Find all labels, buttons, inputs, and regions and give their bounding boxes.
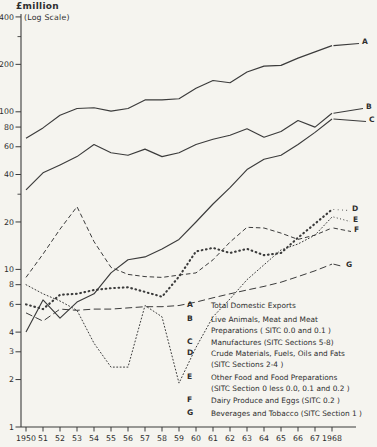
- x-tick-label: 53: [72, 434, 82, 443]
- x-tick-label: 64: [259, 434, 269, 443]
- series-C-leader: [334, 119, 367, 121]
- y-tick-label: 8: [9, 280, 14, 289]
- series-G-leader: [334, 264, 344, 266]
- x-tick-label: 1950: [16, 434, 36, 443]
- x-tick-label: 52: [55, 434, 65, 443]
- series-E-leader: [334, 217, 351, 221]
- y-tick-label: 100: [0, 107, 14, 116]
- series-A-label: A: [362, 37, 368, 46]
- series-F-label: F: [354, 225, 359, 234]
- chart-canvas: 4002001008060402010864321195051525354555…: [0, 0, 377, 447]
- series-G-line: [26, 264, 332, 321]
- x-tick-label: 67: [310, 434, 320, 443]
- series-A-leader: [334, 44, 360, 46]
- series-C-label: C: [369, 115, 375, 124]
- x-tick-label: 55: [106, 434, 116, 443]
- y-tick-label: 1: [9, 423, 14, 432]
- y-tick-label: 80: [4, 123, 14, 132]
- x-tick-label: 62: [225, 434, 235, 443]
- x-tick-label: 63: [242, 434, 252, 443]
- x-tick-label: 56: [123, 434, 133, 443]
- series-F-leader: [334, 228, 352, 231]
- y-tick-label: 10: [4, 265, 14, 274]
- chart-page: £million (Log Scale) 4002001008060402010…: [0, 0, 377, 447]
- x-tick-label: 61: [208, 434, 218, 443]
- series-F-line: [26, 207, 332, 278]
- series-B-leader: [334, 109, 364, 114]
- series-D-line: [26, 210, 332, 310]
- series-A-line: [26, 46, 332, 139]
- series-G-label: G: [346, 260, 352, 269]
- y-tick-label: 20: [4, 218, 14, 227]
- y-tick-label: 400: [0, 13, 14, 22]
- x-tick-label: 59: [174, 434, 184, 443]
- x-tick-label: 66: [293, 434, 303, 443]
- series-B-label: B: [366, 102, 372, 111]
- y-tick-label: 3: [9, 347, 14, 356]
- series-D-leader: [334, 209, 350, 210]
- series-E-line: [26, 217, 332, 383]
- y-tick-label: 6: [9, 300, 14, 309]
- x-tick-label: 54: [89, 434, 99, 443]
- y-tick-label: 4: [9, 328, 14, 337]
- x-tick-label: 1968: [322, 434, 342, 443]
- series-D-label: D: [352, 204, 358, 213]
- y-tick-label: 200: [0, 60, 14, 69]
- series-E-label: E: [353, 215, 358, 224]
- y-tick-label: 40: [4, 170, 14, 179]
- x-tick-label: 65: [276, 434, 286, 443]
- y-tick-label: 2: [9, 375, 14, 384]
- x-tick-label: 57: [140, 434, 150, 443]
- series-C-line: [26, 119, 332, 332]
- x-tick-label: 51: [38, 434, 48, 443]
- x-tick-label: 60: [191, 434, 201, 443]
- x-tick-label: 58: [157, 434, 167, 443]
- y-tick-label: 60: [4, 142, 14, 151]
